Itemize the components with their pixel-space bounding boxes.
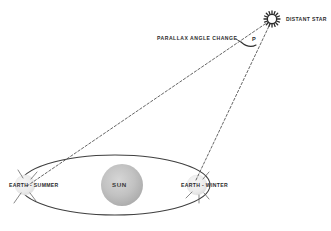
label-earth-winter: EARTH - WINTER (181, 183, 228, 188)
distant-star-icon (264, 11, 280, 27)
sightline-winter-to-star (196, 24, 270, 180)
label-earth-summer: EARTH - SUMMER (9, 183, 59, 188)
label-sun: SUN (112, 182, 127, 188)
parallax-angle-arc (241, 42, 256, 46)
label-parallax-angle-change: PARALLAX ANGLE CHANGE (157, 36, 237, 41)
parallax-diagram: DISTANT STAR PARALLAX ANGLE CHANGE P EAR… (0, 0, 331, 231)
label-distant-star: DISTANT STAR (286, 17, 327, 22)
label-angle-symbol-p: P (252, 37, 256, 43)
